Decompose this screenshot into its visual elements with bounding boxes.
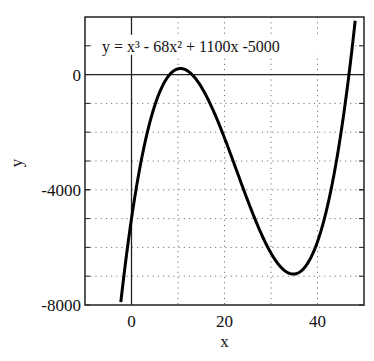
x-axis-label: x [220,332,229,351]
x-tick-labels: 02040 [127,312,326,331]
y-axis-label: y [7,158,26,167]
x-tick-label: 40 [309,312,326,331]
x-tick-label: 20 [216,312,233,331]
y-tick-labels: 0-4000-8000 [41,66,81,315]
cubic-function-chart: y = x³ - 68x² + 1100x -5000 02040 0-4000… [0,0,374,361]
y-tick-label: -4000 [41,181,81,200]
y-tick-label: -8000 [41,296,81,315]
x-tick-label: 0 [127,312,136,331]
y-tick-label: 0 [73,66,82,85]
equation-label: y = x³ - 68x² + 1100x -5000 [102,38,280,56]
